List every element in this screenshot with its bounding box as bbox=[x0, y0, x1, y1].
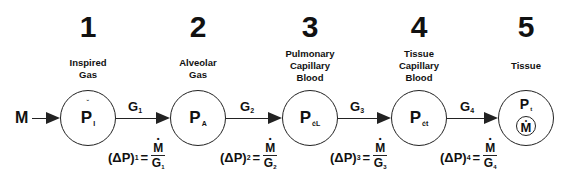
denominator-text: G bbox=[152, 156, 161, 170]
formula-lhs-sub: 1 bbox=[135, 154, 139, 161]
formula-fraction: •M G2 bbox=[263, 142, 277, 173]
pressure-symbol: PćL bbox=[300, 108, 321, 128]
connector-2-3 bbox=[226, 118, 270, 119]
dot-accent-icon: • bbox=[269, 136, 272, 142]
step-number-1: 1 bbox=[68, 12, 108, 42]
p-symbol: P bbox=[520, 96, 529, 112]
formula-lhs: (ΔP) bbox=[330, 150, 357, 165]
fraction-denominator: G3 bbox=[374, 157, 387, 173]
label-inspired-gas: Inspired Gas bbox=[43, 57, 133, 81]
fraction-denominator: G2 bbox=[264, 157, 277, 173]
dot-accent-icon: • bbox=[157, 136, 160, 142]
arrowhead-icon bbox=[46, 112, 60, 124]
denominator-text: G bbox=[374, 156, 383, 170]
formula-fraction: •M G1 bbox=[151, 142, 165, 173]
arrowhead-icon bbox=[484, 112, 498, 124]
formula-lhs: (ΔP) bbox=[440, 150, 467, 165]
numerator-text: M bbox=[265, 141, 275, 155]
dot-accent-icon: ˘ bbox=[87, 100, 89, 106]
label-line: Gas bbox=[153, 69, 243, 81]
fraction-numerator: •M bbox=[265, 142, 275, 154]
formula-delta-p4: (ΔP)4 = •M G4 bbox=[440, 142, 497, 173]
dot-accent-icon: • bbox=[525, 118, 527, 124]
label-line: Capillary bbox=[265, 60, 355, 72]
dot-accent-icon: • bbox=[379, 136, 382, 142]
fraction-denominator: G4 bbox=[484, 157, 497, 173]
step-number-5: 5 bbox=[506, 12, 546, 42]
formula-equals: = bbox=[253, 150, 261, 165]
label-alveolar-gas: Alveolar Gas bbox=[153, 57, 243, 81]
label-line: Gas bbox=[43, 69, 133, 81]
p-subscript: t bbox=[530, 106, 532, 112]
p-symbol: P bbox=[300, 108, 311, 127]
denominator-text: G bbox=[264, 156, 273, 170]
p-subscript: A bbox=[202, 120, 207, 127]
conductance-g3: G3 bbox=[350, 99, 364, 114]
label-pulmonary-capillary-blood: Pulmonary Capillary Blood bbox=[265, 48, 355, 84]
formula-lhs-sub: 2 bbox=[247, 154, 251, 161]
node-tissue-capillary-blood: Pćt bbox=[391, 90, 447, 146]
formula-delta-p3: (ΔP)3 = •M G3 bbox=[330, 142, 387, 173]
g-symbol: G bbox=[350, 99, 360, 114]
denominator-sub: 2 bbox=[273, 164, 276, 170]
step-number-4: 4 bbox=[399, 12, 439, 42]
conductance-g4: G4 bbox=[460, 99, 474, 114]
g-subscript: 4 bbox=[470, 107, 474, 114]
node-pulmonary-capillary-blood: PćL bbox=[282, 90, 338, 146]
formula-delta-p1: (ΔP)1 = •M G1 bbox=[108, 142, 165, 173]
node-tissue: Pt • M bbox=[498, 90, 554, 146]
label-line: Inspired bbox=[43, 57, 133, 69]
pressure-symbol: ˘ PI bbox=[81, 108, 95, 128]
conductance-g2: G2 bbox=[240, 99, 254, 114]
p-symbol: P bbox=[81, 108, 92, 127]
formula-equals: = bbox=[473, 150, 481, 165]
fraction-denominator: G1 bbox=[152, 157, 165, 173]
label-tissue-capillary-blood: Tissue Capillary Blood bbox=[374, 48, 464, 84]
formula-fraction: •M G4 bbox=[483, 142, 497, 173]
formula-lhs-sub: 4 bbox=[467, 154, 471, 161]
numerator-text: M bbox=[153, 141, 163, 155]
g-subscript: 3 bbox=[360, 107, 364, 114]
fraction-numerator: •M bbox=[375, 142, 385, 154]
g-subscript: 2 bbox=[250, 107, 254, 114]
denominator-text: G bbox=[484, 156, 493, 170]
arrowhead-icon bbox=[156, 112, 170, 124]
label-line: Blood bbox=[265, 72, 355, 84]
arrowhead-icon bbox=[377, 112, 391, 124]
p-subscript: ćL bbox=[312, 120, 320, 127]
formula-equals: = bbox=[363, 150, 371, 165]
label-line: Capillary bbox=[374, 60, 464, 72]
connector-1-2 bbox=[116, 118, 158, 119]
dot-accent-icon: • bbox=[489, 136, 492, 142]
formula-lhs-sub: 3 bbox=[357, 154, 361, 161]
formula-lhs: (ΔP) bbox=[220, 150, 247, 165]
p-symbol: P bbox=[189, 108, 200, 127]
formula-fraction: •M G3 bbox=[373, 142, 387, 173]
step-number-2: 2 bbox=[178, 12, 218, 42]
denominator-sub: 4 bbox=[493, 164, 496, 170]
flux-symbol: M bbox=[15, 109, 28, 126]
fraction-numerator: •M bbox=[153, 142, 163, 154]
label-tissue: Tissue bbox=[481, 60, 568, 72]
arrowhead-icon bbox=[268, 112, 282, 124]
g-subscript: 1 bbox=[138, 107, 142, 114]
pressure-symbol: PA bbox=[189, 108, 206, 128]
step-number-3: 3 bbox=[290, 12, 330, 42]
pressure-symbol: Pt bbox=[520, 98, 532, 116]
conductance-g1: G1 bbox=[128, 99, 142, 114]
g-symbol: G bbox=[128, 99, 138, 114]
p-symbol: P bbox=[410, 108, 421, 127]
formula-lhs: (ΔP) bbox=[108, 150, 135, 165]
connector-4-5 bbox=[447, 118, 486, 119]
pressure-symbol: Pćt bbox=[410, 108, 429, 128]
p-subscript: I bbox=[93, 120, 95, 127]
g-symbol: G bbox=[460, 99, 470, 114]
node-inspired-gas: ˘ PI bbox=[60, 90, 116, 146]
p-subscript: ćt bbox=[422, 120, 428, 127]
numerator-text: M bbox=[375, 141, 385, 155]
denominator-sub: 1 bbox=[161, 164, 164, 170]
numerator-text: M bbox=[485, 141, 495, 155]
formula-equals: = bbox=[141, 150, 149, 165]
label-line: Tissue bbox=[374, 48, 464, 60]
fraction-numerator: •M bbox=[485, 142, 495, 154]
